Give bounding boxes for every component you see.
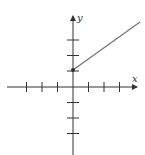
- coordinate-plane: y x: [0, 0, 145, 155]
- x-axis-label: x: [132, 73, 138, 84]
- start-point-dot: [71, 68, 75, 72]
- ray-line: [73, 22, 140, 70]
- y-axis-label: y: [76, 12, 83, 23]
